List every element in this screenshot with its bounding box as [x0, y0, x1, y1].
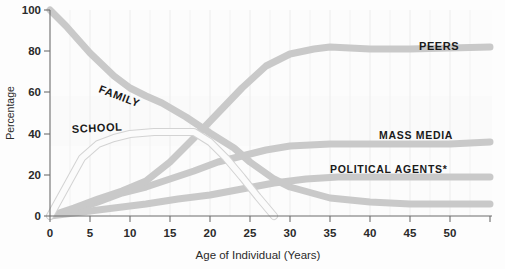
x-tick-label-50: 50 [444, 227, 457, 239]
series-label-mass-media: MASS MEDIA [379, 129, 453, 141]
y-tick-label-20: 20 [28, 169, 41, 181]
series-label-peers: PEERS [419, 40, 459, 52]
y-tick-label-40: 40 [28, 128, 41, 140]
y-axis-ticks [44, 10, 50, 216]
x-tick-label-10: 10 [124, 227, 137, 239]
x-tick-label-0: 0 [47, 227, 53, 239]
x-tick-label-5: 5 [87, 227, 94, 239]
x-tick-label-40: 40 [364, 227, 377, 239]
y-tick-label-80: 80 [28, 45, 41, 57]
y-axis-title: Percentage [4, 86, 16, 140]
x-axis-title: Age of Individual (Years) [196, 249, 321, 261]
x-tick-label-45: 45 [404, 227, 417, 239]
y-tick-label-0: 0 [35, 210, 41, 222]
y-tick-label-100: 100 [22, 4, 41, 16]
series-label-political-agents: POLITICAL AGENTS* [330, 163, 448, 175]
x-tick-label-30: 30 [284, 227, 297, 239]
x-tick-label-35: 35 [324, 227, 337, 239]
x-tick-label-15: 15 [164, 227, 177, 239]
x-tick-label-20: 20 [204, 227, 217, 239]
chart-figure: 0 20 40 60 80 100 0 5 10 15 20 25 30 35 … [0, 0, 505, 269]
y-tick-label-60: 60 [28, 86, 41, 98]
x-tick-label-25: 25 [244, 227, 257, 239]
socialization-agents-line-chart: 0 20 40 60 80 100 0 5 10 15 20 25 30 35 … [0, 0, 505, 269]
